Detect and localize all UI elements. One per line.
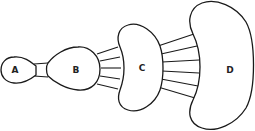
node-a: A — [1, 57, 36, 83]
node-c: C — [118, 24, 163, 111]
node-b: B — [47, 47, 101, 90]
node-d: D — [190, 2, 254, 130]
diagram-canvas: A B C D — [0, 0, 255, 131]
node-d-label: D — [226, 65, 233, 75]
node-b-label: B — [73, 65, 80, 75]
node-a-label: A — [12, 65, 19, 75]
connector-c-d — [158, 34, 199, 98]
node-a-shape — [1, 57, 36, 83]
node-d-shape — [190, 2, 254, 130]
node-c-label: C — [139, 63, 146, 73]
